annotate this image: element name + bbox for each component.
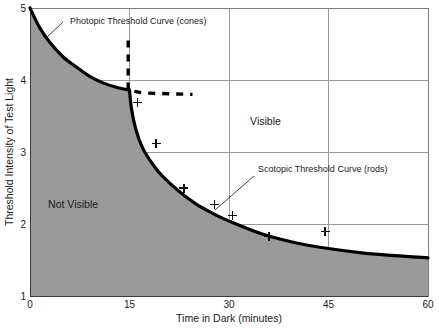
y-tick-label: 2 [20, 219, 26, 230]
y-tick-label: 5 [20, 3, 26, 14]
x-tick-label: 0 [27, 299, 33, 310]
x-tick-label: 45 [323, 299, 335, 310]
y-tick-label: 4 [20, 75, 26, 86]
scotopic-annotation-label: Scotopic Threshold Curve (rods) [258, 164, 387, 174]
x-tick-label: 15 [124, 299, 136, 310]
x-axis-title: Time in Dark (minutes) [176, 312, 282, 324]
y-tick-label: 1 [20, 291, 26, 302]
x-tick-label: 30 [223, 299, 235, 310]
x-tick-labels: 015304560 [27, 299, 434, 310]
y-tick-labels: 12345 [20, 3, 26, 302]
dark-adaptation-chart: 12345 015304560 Time in Dark (minutes) T… [0, 0, 439, 328]
y-tick-label: 3 [20, 147, 26, 158]
x-tick-label: 60 [422, 299, 434, 310]
region-label-not-visible: Not Visible [48, 198, 98, 210]
region-label-visible: Visible [250, 115, 281, 127]
y-axis-title: Threshold Intensity of Test Light [3, 78, 15, 226]
photopic-annotation-label: Photopic Threshold Curve (cones) [70, 16, 206, 26]
chart-container: 12345 015304560 Time in Dark (minutes) T… [0, 0, 439, 328]
